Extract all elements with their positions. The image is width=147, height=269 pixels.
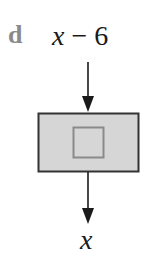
input-arrow bbox=[82, 62, 94, 112]
output-expression: x bbox=[80, 226, 92, 254]
function-machine-diagram bbox=[0, 0, 147, 269]
function-machine-box bbox=[39, 114, 139, 172]
output-arrow bbox=[82, 172, 94, 224]
